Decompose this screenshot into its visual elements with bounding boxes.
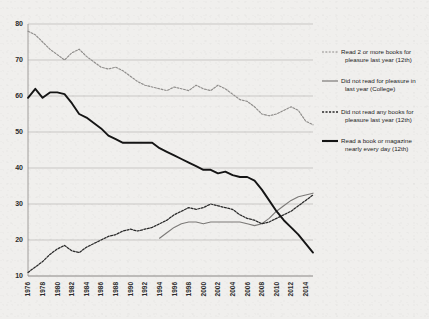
x-tick-label-2000: 2000 <box>200 282 207 297</box>
legend: Read 2 or more books forpleasure last ye… <box>322 48 416 152</box>
x-tick-label-1994: 1994 <box>156 282 163 297</box>
legend-label-line2-1: pleasure last year (12th) <box>345 56 412 63</box>
series-line-3: Did not read any books for pleasure last… <box>28 195 313 272</box>
y-tick-label-20: 20 <box>15 236 23 243</box>
x-tick-label-1980: 1980 <box>54 282 61 297</box>
y-tick-label-70: 70 <box>15 56 23 63</box>
grid-lines <box>28 24 313 276</box>
x-tick-label-1996: 1996 <box>171 282 178 297</box>
x-tick-label-1998: 1998 <box>185 282 192 297</box>
chart-container: 1020304050607080 19761978198019821984198… <box>0 0 429 319</box>
x-tick-label-1978: 1978 <box>39 282 46 297</box>
x-axis-tick-labels: 1976197819801982198419861988199019921994… <box>24 282 309 297</box>
x-tick-label-2014: 2014 <box>302 282 309 297</box>
y-tick-label-80: 80 <box>15 20 23 27</box>
legend-label-line2-4: nearly every day (12th) <box>345 145 408 152</box>
legend-label-line1-3: Did not read any books for <box>341 108 414 115</box>
legend-label-line1-2: Did not read for pleasure in <box>341 77 416 84</box>
x-tick-label-1992: 1992 <box>141 282 148 297</box>
legend-label-line1-1: Read 2 or more books for <box>341 48 411 55</box>
series-line-2: Did not read for pleasure in last year (… <box>160 193 313 238</box>
legend-item-2[interactable]: Did not read for pleasure inlast year (C… <box>322 77 416 92</box>
x-tick-label-1990: 1990 <box>127 282 134 297</box>
y-axis-tick-labels: 1020304050607080 <box>15 20 23 279</box>
x-tick-label-2010: 2010 <box>273 282 280 297</box>
legend-item-4[interactable]: Read a book or magazinenearly every day … <box>322 137 412 152</box>
x-tick-label-1984: 1984 <box>83 282 90 297</box>
y-tick-label-30: 30 <box>15 200 23 207</box>
legend-item-1[interactable]: Read 2 or more books forpleasure last ye… <box>322 48 412 63</box>
y-tick-label-60: 60 <box>15 92 23 99</box>
legend-label-line2-3: pleasure last year (12th) <box>345 116 412 123</box>
y-tick-label-10: 10 <box>15 272 23 279</box>
data-series-group: Read 2 or more books for pleasure last y… <box>28 31 313 272</box>
x-tick-label-1988: 1988 <box>112 282 119 297</box>
x-tick-label-2002: 2002 <box>214 282 221 297</box>
x-tick-label-2006: 2006 <box>244 282 251 297</box>
legend-label-line2-2: last year (College) <box>345 85 395 92</box>
legend-label-line1-4: Read a book or magazine <box>341 137 412 144</box>
x-tick-label-1986: 1986 <box>97 282 104 297</box>
x-tick-label-2012: 2012 <box>287 282 294 297</box>
series-line-4: Read a book or magazine nearly every day… <box>28 89 313 253</box>
x-tick-label-2008: 2008 <box>258 282 265 297</box>
y-tick-label-50: 50 <box>15 128 23 135</box>
legend-item-3[interactable]: Did not read any books forpleasure last … <box>322 108 414 123</box>
series-line-1: Read 2 or more books for pleasure last y… <box>28 31 313 125</box>
axis-lines <box>28 24 313 276</box>
x-tick-label-2004: 2004 <box>229 282 236 297</box>
line-chart-svg: 1020304050607080 19761978198019821984198… <box>0 0 429 319</box>
y-tick-label-40: 40 <box>15 164 23 171</box>
x-tick-label-1982: 1982 <box>68 282 75 297</box>
x-tick-label-1976: 1976 <box>24 282 31 297</box>
